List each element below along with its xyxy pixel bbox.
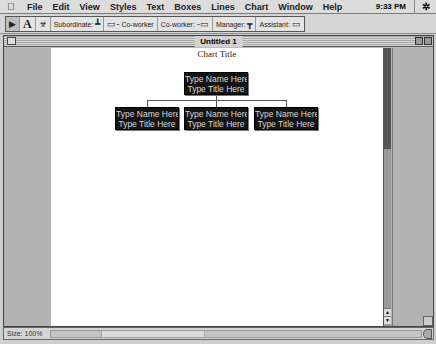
pasteboard-margin (392, 48, 433, 326)
node-name: Type Name Here (185, 109, 247, 119)
subordinate-icon: ┻ (95, 20, 100, 29)
menu-view[interactable]: View (75, 2, 105, 12)
resize-corner-icon[interactable] (423, 329, 432, 339)
menu-help[interactable]: Help (318, 2, 348, 12)
coworker-right-button[interactable]: Co-worker: -▭ (158, 17, 213, 31)
menu-clock[interactable]: 9:33 PM (376, 2, 414, 11)
org-box-subordinate-3[interactable]: Type Name Here Type Title Here (254, 107, 318, 130)
tool-group: ▶ A ☣ Subordinate: ┻ ▭- Co-worker Co-wor… (5, 16, 305, 32)
chart-canvas[interactable]: Chart Title Type Name Here Type Title He… (51, 48, 383, 326)
coworker-left-button[interactable]: ▭- Co-worker (104, 17, 157, 31)
coworker-left-label: Co-worker (121, 21, 153, 28)
org-box-subordinate-2[interactable]: Type Name Here Type Title Here (184, 107, 248, 130)
scroll-down-arrow-icon[interactable]: ▼ (384, 316, 391, 324)
coworker-right-label: Co-worker: (161, 21, 195, 28)
menu-window[interactable]: Window (273, 2, 317, 12)
node-title: Type Title Here (116, 119, 178, 129)
horizontal-scroll-thumb[interactable] (101, 331, 205, 337)
menu-edit[interactable]: Edit (48, 2, 75, 12)
menu-lines[interactable]: Lines (206, 2, 240, 12)
text-tool-button[interactable]: A (20, 17, 36, 31)
chart-title[interactable]: Chart Title (51, 49, 383, 59)
connector-sub3 (286, 100, 287, 107)
manager-button[interactable]: Manager: ┳ (213, 17, 257, 31)
grow-box-icon[interactable] (423, 316, 433, 326)
menu-file[interactable]: File (22, 2, 48, 12)
arrow-tool-button[interactable]: ▶ (6, 17, 20, 31)
zoom-size-label[interactable]: Size: 100% (7, 330, 42, 337)
vertical-scroll-thumb[interactable] (384, 48, 391, 149)
menu-chart[interactable]: Chart (240, 2, 274, 12)
toolbar: ▶ A ☣ Subordinate: ┻ ▭- Co-worker Co-wor… (0, 14, 436, 34)
collapse-box-icon[interactable] (424, 37, 432, 45)
menu-boxes[interactable]: Boxes (169, 2, 206, 12)
org-box-subordinate-1[interactable]: Type Name Here Type Title Here (115, 107, 179, 130)
manager-label: Manager: (216, 21, 246, 28)
vertical-scrollbar[interactable]: ▲ ▼ (383, 48, 391, 326)
arrow-pointer-icon: ▶ (9, 20, 16, 29)
status-bar: Size: 100% (3, 327, 434, 340)
assistant-icon: ▭ (292, 20, 301, 29)
menu-styles[interactable]: Styles (105, 2, 142, 12)
node-name: Type Name Here (116, 109, 178, 119)
subordinate-label: Subordinate: (54, 21, 94, 28)
node-title: Type Title Here (185, 119, 247, 129)
node-name: Type Name Here (185, 74, 247, 84)
org-chart-icon: ☣ (39, 20, 47, 29)
close-box-icon[interactable] (7, 37, 16, 45)
node-name: Type Name Here (255, 109, 317, 119)
connector-sub1 (147, 100, 148, 107)
node-title: Type Title Here (255, 119, 317, 129)
manager-icon: ┳ (247, 20, 252, 29)
coworker-right-icon: -▭ (197, 20, 209, 29)
application-menu-icon[interactable]: ✲ (414, 0, 436, 14)
window-content: Chart Title Type Name Here Type Title He… (4, 48, 433, 326)
apple-menu-icon[interactable]:  (0, 1, 22, 12)
document-window: Untitled 1 Chart Title Type Name Here Ty… (3, 35, 434, 327)
zoom-box-icon[interactable] (415, 37, 423, 45)
window-title-bar[interactable]: Untitled 1 (4, 36, 433, 47)
window-title: Untitled 1 (194, 36, 242, 47)
assistant-button[interactable]: Assistant: ▭ (256, 17, 303, 31)
org-box-manager[interactable]: Type Name Here Type Title Here (184, 72, 248, 95)
text-tool-icon: A (23, 17, 32, 32)
menu-bar:  File Edit View Styles Text Boxes Lines… (0, 0, 436, 14)
node-title: Type Title Here (185, 84, 247, 94)
scroll-up-arrow-icon[interactable]: ▲ (384, 308, 391, 316)
connector-sub2 (216, 100, 217, 107)
connector-horizontal (147, 100, 287, 101)
horizontal-scrollbar[interactable] (50, 330, 422, 338)
menu-text[interactable]: Text (141, 2, 169, 12)
coworker-left-icon: ▭- (107, 20, 119, 29)
org-chart-tool-button[interactable]: ☣ (36, 17, 51, 31)
subordinate-button[interactable]: Subordinate: ┻ (51, 17, 105, 31)
assistant-label: Assistant: (259, 21, 289, 28)
